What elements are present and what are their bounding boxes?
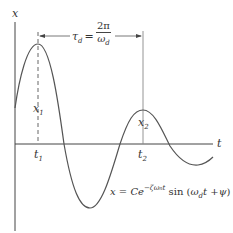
omega-subscript: d bbox=[105, 39, 109, 47]
exponent-text: −ζω bbox=[144, 184, 159, 192]
t1-subscript: 1 bbox=[38, 155, 42, 163]
y-axis-label: x bbox=[12, 8, 18, 19]
t-axis-label: t bbox=[217, 138, 221, 149]
x2-label: x2 bbox=[138, 117, 149, 128]
formula-sin: sin ( bbox=[165, 186, 190, 197]
t1-label: t1 bbox=[34, 149, 43, 160]
damped-sine-curve bbox=[15, 44, 213, 208]
formula-coefficient: Ce bbox=[130, 186, 144, 197]
x1-subscript: 1 bbox=[39, 109, 43, 117]
tau-subscript: d bbox=[78, 37, 82, 45]
arrowhead-right-icon bbox=[136, 34, 142, 38]
t2-label: t2 bbox=[138, 149, 147, 160]
period-fraction: 2π ωd bbox=[96, 21, 111, 44]
formula-exponent: −ζωnt bbox=[144, 184, 165, 192]
arrowhead-left-icon bbox=[39, 34, 45, 38]
t-axis-label-text: t bbox=[217, 137, 221, 150]
exponent-t: t bbox=[163, 184, 166, 192]
x1-label: x1 bbox=[33, 103, 44, 114]
formula-close-paren: ) bbox=[227, 186, 231, 197]
period-numerator: 2π bbox=[96, 21, 111, 33]
period-equals: = bbox=[85, 30, 94, 43]
period-denominator: ωd bbox=[96, 33, 111, 44]
period-symbol: τd= bbox=[72, 31, 94, 42]
formula-plus: + bbox=[207, 186, 219, 197]
y-axis-label-text: x bbox=[12, 7, 18, 20]
formula-equals: = bbox=[116, 186, 131, 197]
formula-omega: ω bbox=[190, 186, 198, 197]
formula-omega-subscript: d bbox=[199, 192, 203, 200]
damped-oscillation-diagram: x t x1 t1 x2 t2 τd= 2π ωd x = Ce−ζωnt si… bbox=[0, 0, 233, 233]
x2-subscript: 2 bbox=[144, 123, 148, 131]
motion-formula: x = Ce−ζωnt sin (ωdt +ψ) bbox=[110, 186, 230, 197]
formula-psi: ψ bbox=[219, 186, 227, 197]
t2-subscript: 2 bbox=[142, 155, 146, 163]
